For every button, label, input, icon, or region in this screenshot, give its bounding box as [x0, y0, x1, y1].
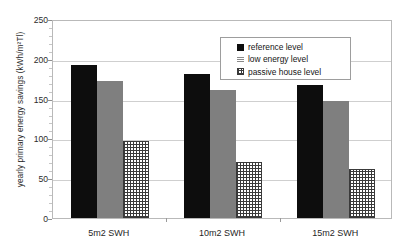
legend-swatch-passive-house-level-icon: [237, 68, 244, 75]
legend-swatch-low-energy-level-icon: [237, 56, 244, 63]
bar: [71, 65, 97, 218]
bar: [97, 81, 123, 218]
y-tick-label: 50: [2, 174, 48, 184]
x-axis-label: 10m2 SWH: [199, 228, 245, 238]
bar: [123, 141, 149, 218]
bar: [210, 90, 236, 218]
y-tick-label: 150: [2, 95, 48, 105]
y-tick-label: 100: [2, 134, 48, 144]
legend-swatch-reference-level-icon: [237, 44, 244, 51]
bar: [184, 74, 210, 218]
bar: [323, 101, 349, 218]
legend-label-reference-level: reference level: [248, 43, 303, 51]
bar: [236, 162, 262, 218]
y-tick-label: 200: [2, 55, 48, 65]
legend: reference level low energy level passive…: [220, 37, 351, 80]
x-axis-label: 5m2 SWH: [88, 228, 129, 238]
legend-label-passive-house-level: passive house level: [248, 68, 321, 76]
x-axis-tick: [166, 218, 167, 222]
y-tick-label: 0: [2, 214, 48, 224]
legend-item-reference-level: reference level: [237, 41, 350, 53]
legend-item-passive-house-level: passive house level: [237, 66, 350, 78]
bar: [297, 85, 323, 218]
legend-label-low-energy-level: low energy level: [248, 55, 308, 63]
y-tick-label: 250: [2, 15, 48, 25]
x-axis-label: 15m2 SWH: [312, 228, 358, 238]
bar: [349, 169, 375, 218]
plot-area: reference level low energy level passive…: [52, 20, 392, 219]
y-tick-mark: [47, 219, 52, 220]
legend-item-low-energy-level: low energy level: [237, 53, 350, 65]
bar-chart: yearly primary energy savings (kWh/m²Tl)…: [0, 0, 408, 250]
x-axis-tick: [280, 218, 281, 222]
